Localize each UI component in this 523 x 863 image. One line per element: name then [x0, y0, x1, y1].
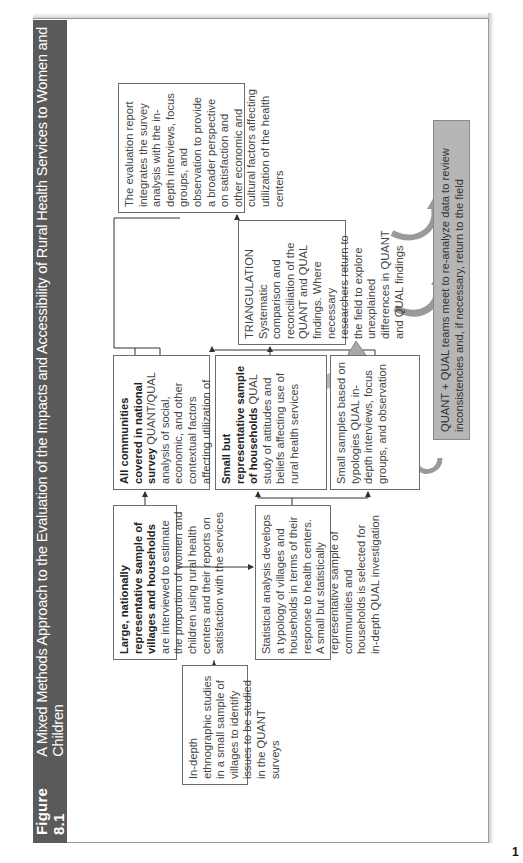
arrow-all-to-top: [114, 218, 180, 355]
review-text: QUANT + QUAL teams meet to re-analyze da…: [439, 148, 465, 432]
statistical-text: Statistical analysis develops a typology…: [260, 515, 381, 654]
box-triangulation: TRIANGULATION Systematic comparison and …: [238, 220, 346, 345]
box-evaluation-report: The evaluation report integrates the sur…: [118, 83, 245, 213]
large-sample-heading: Large, nationally representative sample …: [118, 522, 157, 654]
curved-arrow-small-icon: [418, 458, 440, 471]
box-small-samples: Small samples based on typologies QUAL i…: [330, 355, 420, 490]
evaluation-report-text: The evaluation report integrates the sur…: [123, 89, 285, 207]
triangulation-text: Systematic comparison and reconciliation…: [257, 231, 405, 339]
curved-arrow-tri-icon: [392, 207, 434, 237]
box-all-communities: All communities covered in national surv…: [113, 355, 210, 490]
small-samples-text: Small samples based on typologies QUAL i…: [335, 362, 388, 484]
rotated-page: Figure 8.1 A Mixed Methods Approach to t…: [0, 0, 523, 863]
box-small-representative: Small but representative sample of house…: [215, 355, 327, 490]
large-sample-text: are interviewed to estimate the proporti…: [159, 512, 225, 654]
box-ethnographic-studies: In-depth ethnographic studies in a small…: [182, 665, 248, 785]
arrow-stat-to-split: [258, 498, 292, 505]
triangulation-heading: TRIANGULATION: [243, 249, 255, 339]
page-number: 1: [512, 845, 519, 859]
box-review-inconsistencies: QUANT + QUAL teams meet to re-analyze da…: [433, 120, 470, 440]
box-statistical-analysis: Statistical analysis develops a typology…: [255, 505, 331, 660]
box-large-sample: Large, nationally representative sample …: [113, 505, 177, 660]
